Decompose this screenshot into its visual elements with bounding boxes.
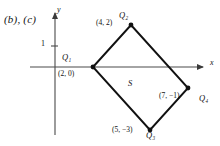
region-label-s: S [128,79,132,88]
vertex-point-q2 [129,23,134,28]
vertex-coord-q3: (5, −3) [112,126,132,134]
vertex-label-q3: Q₃ [146,131,155,140]
vertex-point-q4 [186,86,191,91]
y-axis-label: y [57,6,61,14]
vertex-coord-q2: (4, 2) [96,19,112,27]
vertex-coord-q4: (7, −1) [159,92,179,100]
region-polygon [93,25,188,130]
x-axis-label: x [210,59,214,67]
figure-panel: (b), (c) y x 1 Q₁ (2, 0) Q₂ (4, 2) Q₃ (5… [0,0,220,146]
vertex-point-q1 [91,65,96,70]
y-axis-tick-label-1: 1 [41,40,45,48]
vertex-label-q4: Q₄ [199,94,208,103]
vertex-label-q2: Q₂ [119,11,128,20]
vertex-label-q1: Q₁ [62,53,71,62]
vertex-coord-q1: (2, 0) [58,70,74,78]
